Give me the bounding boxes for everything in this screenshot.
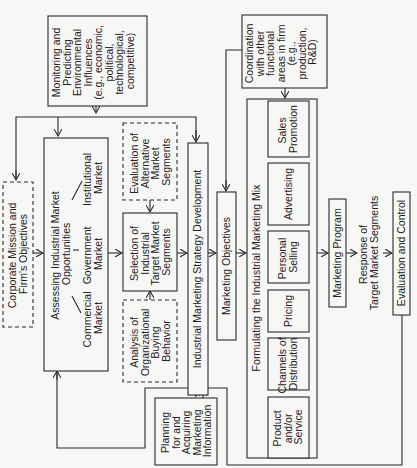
marketing-program-node: Marketing Program bbox=[329, 199, 346, 307]
svg-text:Channels of Distributi: Channels of Distribution bbox=[276, 335, 299, 394]
mix-advertising: Advertising bbox=[268, 163, 309, 225]
svg-text:Evaluation and Control: Evaluation and Control bbox=[395, 200, 407, 306]
svg-text:Response of Target Marke: Response of Target Market Segments bbox=[357, 196, 380, 310]
selection-segments-node: Selection of Industrial Target Market Se… bbox=[123, 213, 177, 291]
svg-text:Planning for and A: Planning for and Acquiring Marketing Inf… bbox=[159, 405, 213, 458]
svg-text:Coordination with other: Coordination with other functional areas… bbox=[243, 21, 318, 83]
svg-text:Evaluation of Alternativ: Evaluation of Alternative Market Segment… bbox=[128, 130, 172, 194]
svg-text:Corporate Mission and Fi: Corporate Mission and Firm's Objectives bbox=[6, 200, 29, 309]
svg-text:Marketing Program: Marketing Program bbox=[331, 208, 343, 298]
corporate-mission-node: Corporate Mission and Firm's Objectives bbox=[3, 182, 33, 327]
monitoring-node: Monitoring and Predicting Environmental … bbox=[48, 16, 147, 106]
planning-information-node: Planning for and Acquiring Marketing Inf… bbox=[155, 398, 217, 465]
svg-text:Advertising: Advertising bbox=[282, 168, 294, 220]
evaluation-control-node: Evaluation and Control bbox=[393, 192, 410, 315]
svg-text:Personal Selling: Personal Selling bbox=[276, 235, 299, 279]
svg-text:Marketing Objectives: Marketing Objectives bbox=[220, 217, 232, 315]
response-label: Response of Target Market Segments bbox=[357, 196, 380, 310]
mix-sales-promotion: Sales Promotion bbox=[268, 101, 309, 157]
svg-text:Product and/or: Product and/or Service bbox=[271, 407, 304, 446]
line-coordination-to-objectives bbox=[226, 50, 242, 188]
svg-text:Formulating the Industrial Mar: Formulating the Industrial Marketing Mix bbox=[250, 184, 262, 371]
svg-text:Industrial Marketing Strategy: Industrial Marketing Strategy Developmen… bbox=[191, 170, 203, 369]
mix-channels-distribution: Channels of Distribution bbox=[268, 335, 309, 394]
industrial-marketing-planning-diagram: Monitoring and Predicting Environmental … bbox=[0, 0, 417, 468]
mix-pricing: Pricing bbox=[268, 290, 309, 332]
analysis-buying-behavior-node: Analysis of Organizational Buying Behavi… bbox=[123, 300, 177, 382]
mix-personal-selling: Personal Selling bbox=[268, 231, 309, 283]
strategy-development-node: Industrial Marketing Strategy Developmen… bbox=[188, 143, 208, 395]
evaluation-segments-node: Evaluation of Alternative Market Segment… bbox=[123, 123, 177, 200]
assessing-opportunities-node: Assessing Industrial Market Opportunitie… bbox=[44, 138, 108, 371]
mix-product-service: Product and/or Service bbox=[268, 397, 309, 458]
svg-text:Pricing: Pricing bbox=[282, 295, 294, 327]
marketing-objectives-node: Marketing Objectives bbox=[217, 192, 236, 340]
coordination-node: Coordination with other functional areas… bbox=[242, 15, 327, 88]
marketing-mix-node: Formulating the Industrial Marketing Mix… bbox=[247, 99, 317, 458]
svg-text:Selection of Industrial: Selection of Industrial Target Market Se… bbox=[128, 218, 172, 285]
